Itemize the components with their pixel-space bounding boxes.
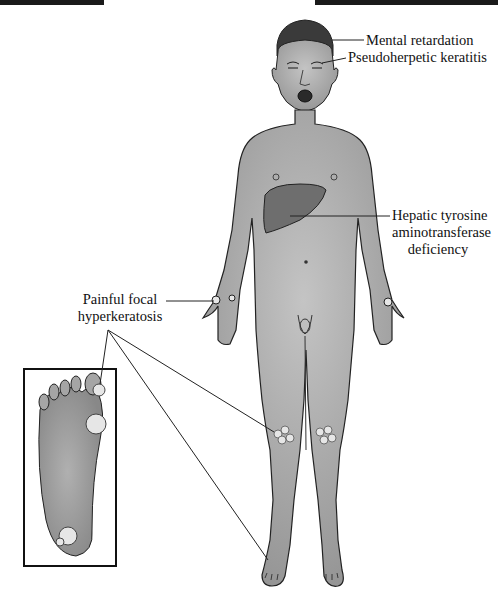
label-pseudoherpetic-keratitis: Pseudoherpetic keratitis: [348, 49, 487, 66]
label-hepatic-line1: Hepatic tyrosine: [392, 207, 484, 224]
head: [272, 20, 338, 112]
label-mental-retardation: Mental retardation: [366, 32, 474, 49]
label-hyper-line2: hyperkeratosis: [74, 308, 166, 325]
label-hepatic-line2: aminotransferase: [392, 224, 484, 241]
label-hepatic-line3: deficiency: [392, 241, 484, 258]
torso: [203, 110, 404, 586]
label-hyper-line1: Painful focal: [74, 291, 166, 308]
label-hepatic: Hepatic tyrosine aminotransferase defici…: [392, 207, 484, 258]
label-hyperkeratosis: Painful focal hyperkeratosis: [74, 291, 166, 325]
